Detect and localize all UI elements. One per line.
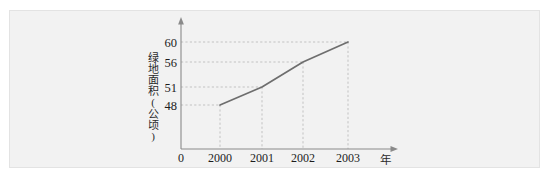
y-tick-label-56: 56 <box>151 56 177 71</box>
x-tick-label-2003: 2003 <box>336 151 360 166</box>
x-tick-label-2002: 2002 <box>291 151 315 166</box>
y-tick-label-51: 51 <box>151 81 177 96</box>
x-tick-label-origin: 0 <box>178 151 184 166</box>
horizontal-gridlines <box>181 42 348 105</box>
x-tick-label-2000: 2000 <box>208 151 232 166</box>
data-line-green-area <box>220 42 348 105</box>
x-tick-label-2001: 2001 <box>250 151 274 166</box>
x-axis-tick-labels: 0 2000 2001 2002 2003 <box>0 151 549 167</box>
chart-figure: 绿地面积(公顷) 60 56 51 48 0 2000 2001 2002 20… <box>0 0 549 181</box>
vertical-gridlines <box>220 42 348 149</box>
y-axis-arrow-icon <box>178 17 184 25</box>
y-tick-label-48: 48 <box>151 99 177 114</box>
y-tick-label-60: 60 <box>151 36 177 51</box>
y-axis <box>178 17 184 149</box>
x-axis-title: 年 <box>380 151 391 167</box>
